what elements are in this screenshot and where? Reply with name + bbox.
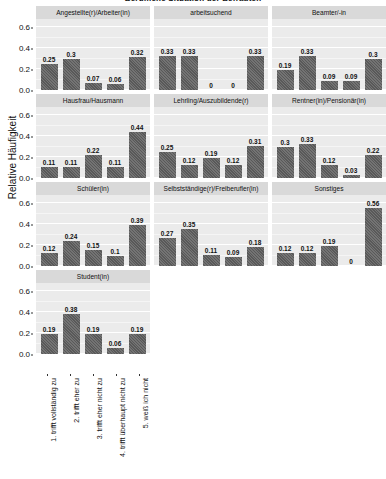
bar: [85, 250, 102, 266]
facet-row: Student(in)0.190.380.190.060.19: [36, 270, 386, 354]
bar-slot: 0.11: [41, 107, 58, 178]
y-axis-tick-label: 0.0: [19, 350, 30, 359]
bar-value-label: 0.33: [161, 48, 174, 55]
bar-slot: 0.12: [321, 107, 338, 178]
facet-row: Schüler(in)0.120.240.150.10.39Selbststän…: [36, 182, 386, 266]
bar-value-label: 0.19: [205, 150, 218, 157]
bar: [181, 56, 198, 90]
y-axis-title: Relative Häufigkeit: [7, 93, 18, 223]
bar-value-label: 0.35: [183, 221, 196, 228]
bar-slot: 0.33: [299, 107, 316, 178]
bar-value-label: 0.19: [323, 238, 336, 245]
facet-panel: Hausfrau/Hausmann0.110.110.220.110.44: [36, 94, 150, 178]
bar-slot: 0.11: [63, 107, 80, 178]
bar: [299, 56, 316, 90]
bar-slot: 0: [203, 19, 220, 90]
bar: [321, 165, 338, 178]
facet-panel-plot-area: 0.330.33000.33: [154, 19, 268, 90]
bar-series: 0.250.120.190.120.31: [154, 107, 268, 178]
bar-value-label: 0.27: [161, 230, 174, 237]
bar: [129, 132, 146, 178]
bar-slot: 0.22: [85, 107, 102, 178]
bar-slot: 0.31: [247, 107, 264, 178]
bar: [85, 155, 102, 178]
bar-slot: 0.12: [225, 107, 242, 178]
facet-panel: Schüler(in)0.120.240.150.10.39: [36, 182, 150, 266]
facet-panel-plot-area: 0.30.330.120.030.22: [272, 107, 386, 178]
bar: [85, 334, 102, 354]
y-axis-tick-label: 0.4: [19, 132, 30, 141]
y-axis-tick-label: 0.6: [19, 111, 30, 120]
bar-value-label: 0.12: [227, 157, 240, 164]
bar-value-label: 0.25: [43, 56, 56, 63]
facet-panel-title: Angestellte(r)/Arbeiter(in): [36, 6, 150, 19]
bar-value-label: 0.33: [249, 48, 262, 55]
bar-series: 0.120.120.1900.56: [272, 195, 386, 266]
bar-series: 0.250.30.070.060.32: [36, 19, 150, 90]
bar-slot: 0.33: [159, 19, 176, 90]
bar-value-label: 0.03: [345, 167, 358, 174]
bar-slot: 0.25: [41, 19, 58, 90]
x-axis-tick-mark: [47, 374, 48, 376]
bar-value-label: 0: [209, 82, 213, 89]
bar: [277, 147, 294, 178]
bar-slot: 0.11: [203, 195, 220, 266]
facet-panel-title: Rentner(in)/Pensionär(in): [272, 94, 386, 107]
bar-value-label: 0.38: [65, 306, 78, 313]
bar-value-label: 0.22: [87, 147, 100, 154]
x-axis-tick-label: 1. trifft vollständig zu: [50, 378, 57, 442]
faceted-bar-chart: Berufliche Situation der Befragten Relat…: [0, 0, 386, 479]
y-axis-tick-label: 0.4: [19, 220, 30, 229]
bar-value-label: 0.06: [109, 76, 122, 83]
bar: [63, 241, 80, 266]
facet-panel-plot-area: 0.190.380.190.060.19: [36, 283, 150, 354]
bar: [159, 56, 176, 90]
bar-slot: 0.33: [181, 19, 198, 90]
bar-series: 0.270.350.110.090.18: [154, 195, 268, 266]
bar-value-label: 0.3: [368, 51, 377, 58]
bar-slot: 0.12: [181, 107, 198, 178]
bar-value-label: 0.09: [345, 73, 358, 80]
bar-slot: 0.19: [85, 283, 102, 354]
bar-value-label: 0: [349, 258, 353, 265]
bar: [107, 348, 124, 354]
bar: [129, 57, 146, 90]
y-axis-tick-label: 0.4: [19, 44, 30, 53]
bar-series: 0.190.330.090.090.3: [272, 19, 386, 90]
bar-value-label: 0.33: [301, 48, 314, 55]
bar: [107, 167, 124, 178]
bar-value-label: 0.1: [110, 248, 119, 255]
bar-slot: 0.18: [247, 195, 264, 266]
bar: [247, 56, 264, 90]
bar-slot: 0.12: [299, 195, 316, 266]
bar-value-label: 0.25: [161, 144, 174, 151]
bar-value-label: 0.12: [279, 245, 292, 252]
bar-value-label: 0.11: [65, 159, 77, 166]
bar-slot: 0: [225, 19, 242, 90]
bar-slot: 0.09: [225, 195, 242, 266]
facet-panel: Rentner(in)/Pensionär(in)0.30.330.120.03…: [272, 94, 386, 178]
bar-value-label: 0.39: [131, 217, 144, 224]
x-axis-tick-label: 4. trifft überhaupt nicht zu: [119, 378, 126, 457]
chart-title: Berufliche Situation der Befragten: [0, 0, 386, 1]
bar: [107, 256, 124, 266]
bar: [247, 247, 264, 266]
bar: [41, 253, 58, 266]
bar-slot: 0.33: [299, 19, 316, 90]
bar-slot: 0.06: [107, 19, 124, 90]
bar-slot: 0.09: [343, 19, 360, 90]
bar-value-label: 0.19: [87, 326, 100, 333]
bar-slot: 0.11: [107, 107, 124, 178]
bar: [129, 225, 146, 266]
facet-panel-plot-area: 0.110.110.220.110.44: [36, 107, 150, 178]
bar: [299, 144, 316, 178]
bar-slot: 0.25: [159, 107, 176, 178]
y-axis-tick-label: 0.0: [19, 86, 30, 95]
facet-panel-plot-area: 0.270.350.110.090.18: [154, 195, 268, 266]
bar: [63, 314, 80, 354]
facet-panel-plot-area: 0.250.30.070.060.32: [36, 19, 150, 90]
bar: [129, 334, 146, 354]
bar: [277, 253, 294, 266]
facet-panel-plot-area: 0.120.120.1900.56: [272, 195, 386, 266]
facet-row: Angestellte(r)/Arbeiter(in)0.250.30.070.…: [36, 6, 386, 90]
